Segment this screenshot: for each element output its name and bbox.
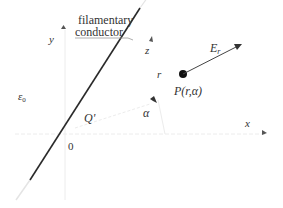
y-axis-arrow-icon bbox=[61, 25, 66, 29]
z-axis-arrow-icon bbox=[149, 36, 153, 42]
radius-label: r bbox=[157, 68, 162, 80]
field-label: Er bbox=[209, 41, 221, 56]
x-axis-label: x bbox=[244, 117, 250, 129]
y-axis-label: y bbox=[48, 33, 54, 45]
callout-label-line2: conductor bbox=[75, 25, 123, 39]
z-axis-label: z bbox=[144, 44, 150, 56]
angle-label: α bbox=[143, 106, 150, 120]
origin-label: 0 bbox=[68, 140, 74, 152]
permittivity-label: ε0 bbox=[18, 90, 26, 104]
conductor-extension-top bbox=[140, 0, 160, 8]
conductor-extension-bottom bbox=[16, 180, 30, 200]
angle-arrow-icon bbox=[150, 96, 157, 103]
point-label: P(r,α) bbox=[173, 84, 202, 98]
charge-label: Q' bbox=[84, 111, 96, 125]
conductor-field-diagram: filamentary conductor y x z 0 Q' ε0 r α … bbox=[0, 0, 283, 208]
angle-reference-line bbox=[158, 100, 165, 134]
